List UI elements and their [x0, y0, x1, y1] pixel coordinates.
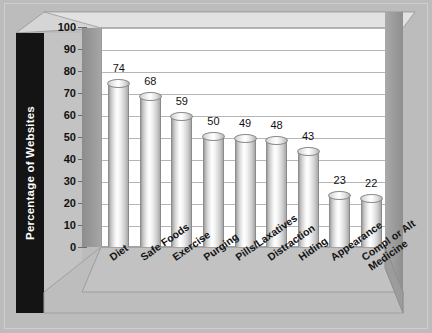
bar-value-label: 59: [176, 96, 188, 107]
chart-container: Percentage of Websites 01020304050607080…: [0, 0, 432, 333]
bar: [140, 97, 161, 247]
bar-body: [108, 84, 129, 247]
bar-value-label: 50: [207, 116, 219, 127]
bar-top-ellipse: [360, 194, 383, 203]
bar: [235, 139, 256, 247]
bar-value-label: 43: [302, 131, 314, 142]
bar-value-label: 74: [113, 63, 125, 74]
bar-body: [235, 139, 256, 247]
bar-value-label: 68: [144, 76, 156, 87]
bar-body: [140, 97, 161, 247]
bar: [108, 84, 129, 247]
bar-value-label: 48: [270, 120, 282, 131]
bar-top-ellipse: [234, 134, 257, 143]
bar-value-label: 22: [365, 178, 377, 189]
bar-top-ellipse: [202, 132, 225, 141]
bar-value-label: 49: [239, 118, 251, 129]
bar-value-label: 23: [334, 175, 346, 186]
